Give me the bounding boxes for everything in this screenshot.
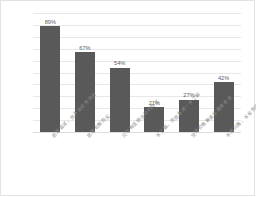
bar[interactable] (110, 68, 130, 132)
bar-value-label: 54% (114, 60, 125, 66)
x-axis-category-label: 不感兴趣，不会购买 (224, 134, 228, 138)
bar-value-label: 67% (79, 45, 90, 51)
x-axis-category-label: 只在有促销活动时购买 (120, 134, 124, 138)
x-axis-category-label: 不了解，但愿意进一步了解 (154, 134, 158, 138)
x-axis-category-labels: 愿意尝试，但不会经常购买愿意长期购买只在有促销活动时购买不了解，但愿意进一步了解… (33, 134, 241, 194)
x-axis-category-label: 愿意长期购买 (85, 134, 89, 138)
bar-value-label: 42% (218, 75, 229, 81)
bar-slot: 89% (33, 13, 68, 132)
bar-chart: 89%67%54%21%27%42% 0%10%20%30%40%50%60%7… (0, 0, 255, 196)
gridline (33, 132, 241, 133)
bar[interactable] (40, 26, 60, 132)
x-axis-category-label: 愿意尝试，但不会经常购买 (50, 134, 54, 138)
bar-value-label: 89% (45, 19, 56, 25)
x-axis-category-label: 觉得价格偏高会谨慎考虑 (189, 134, 193, 138)
